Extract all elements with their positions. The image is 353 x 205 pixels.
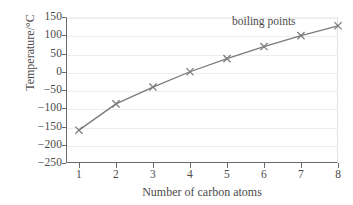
x-axis-tick-label: 5	[212, 168, 242, 182]
x-axis-tick-mark	[227, 163, 228, 168]
x-axis-tick-label: 8	[323, 168, 353, 182]
x-axis-tick-mark	[264, 163, 265, 168]
data-point-marker	[112, 100, 119, 107]
y-axis-tick-label: 100	[18, 30, 62, 42]
y-axis-tick-label: −50	[18, 84, 62, 96]
x-axis-tick-mark	[79, 163, 80, 168]
y-axis-tick-label: −100	[18, 103, 62, 115]
x-axis-tick-label: 2	[101, 168, 131, 182]
x-axis-tick-mark	[116, 163, 117, 168]
series-line-boiling-points	[79, 26, 338, 130]
x-axis-tick-mark	[338, 163, 339, 168]
y-axis-tick-label: −150	[18, 121, 62, 133]
x-axis-tick-label: 3	[138, 168, 168, 182]
data-point-marker	[260, 43, 267, 50]
y-axis-tick-label: 0	[18, 66, 62, 78]
data-point-marker	[223, 55, 230, 62]
x-axis-tick-mark	[301, 163, 302, 168]
x-axis-title: Number of carbon atoms	[66, 185, 338, 200]
data-point-marker	[75, 127, 82, 134]
series-annotation-boiling-points: boiling points	[232, 15, 296, 27]
y-axis-tick-label: −250	[18, 157, 62, 169]
data-point-marker	[149, 83, 156, 90]
x-axis-tick-labels: 12345678	[66, 168, 338, 184]
x-axis-tick-label: 6	[249, 168, 279, 182]
y-axis-tick-label: −200	[18, 139, 62, 151]
x-axis-tick-label: 7	[286, 168, 316, 182]
x-axis-tick-label: 4	[175, 168, 205, 182]
y-axis-tick-labels: 150100500−50−100−150−200−250	[14, 17, 62, 163]
data-series-layer	[66, 17, 338, 163]
data-point-marker	[186, 68, 193, 75]
y-axis-tick-label: 150	[18, 11, 62, 23]
x-axis-tick-mark	[190, 163, 191, 168]
x-axis-tick-mark	[153, 163, 154, 168]
x-axis-tick-label: 1	[64, 168, 94, 182]
y-axis-tick-label: 50	[18, 48, 62, 60]
boiling-points-line-chart: Temperature/°C 150100500−50−100−150−200−…	[0, 0, 353, 205]
